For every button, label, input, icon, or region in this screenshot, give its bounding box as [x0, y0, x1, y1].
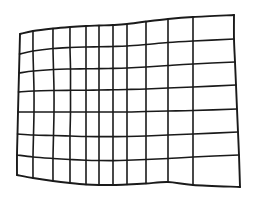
grid-line-vertical-3	[70, 27, 71, 183]
grid-canvas	[0, 0, 253, 200]
distorted-grid-figure: Distorted Grid Calibration Pattern A qua…	[0, 0, 253, 200]
